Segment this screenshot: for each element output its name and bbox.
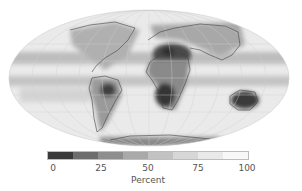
colorbar xyxy=(47,151,249,160)
colorbar-segment xyxy=(73,152,98,159)
colorbar-label: Percent xyxy=(131,175,165,185)
map-fill xyxy=(0,0,302,148)
colorbar-tick: 75 xyxy=(192,163,203,173)
colorbar-tick: 50 xyxy=(142,163,153,173)
colorbar-segment xyxy=(123,152,148,159)
colorbar-tick: 0 xyxy=(50,163,56,173)
colorbar-segment xyxy=(98,152,123,159)
colorbar-tick: 25 xyxy=(95,163,106,173)
colorbar-segment xyxy=(148,152,173,159)
colorbar-tick: 100 xyxy=(238,163,255,173)
colorbar-segment xyxy=(223,152,248,159)
colorbar-segment xyxy=(48,152,73,159)
colorbar-segment xyxy=(173,152,198,159)
colorbar-segment xyxy=(198,152,223,159)
world-map xyxy=(0,0,302,148)
